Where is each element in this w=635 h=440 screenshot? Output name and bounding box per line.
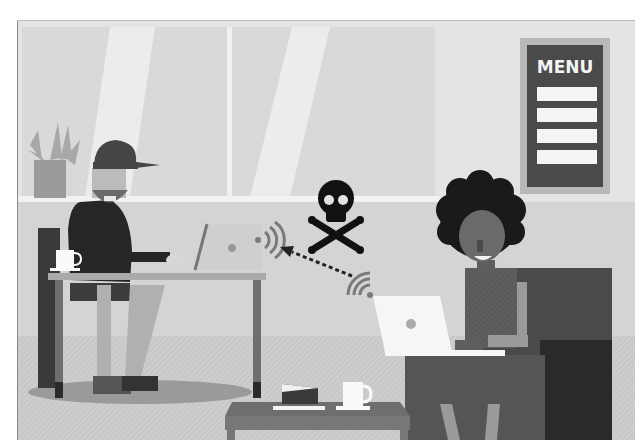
- window: [18, 27, 440, 202]
- menu-line: [537, 87, 597, 101]
- menu-line: [537, 150, 597, 164]
- menu-line: [537, 129, 597, 143]
- menu-line: [537, 108, 597, 122]
- cafe-wifi-illustration: MENU: [0, 0, 635, 440]
- hacker-laptop: [195, 224, 262, 270]
- menu-sign: MENU: [520, 38, 610, 194]
- menu-title: MENU: [537, 57, 594, 77]
